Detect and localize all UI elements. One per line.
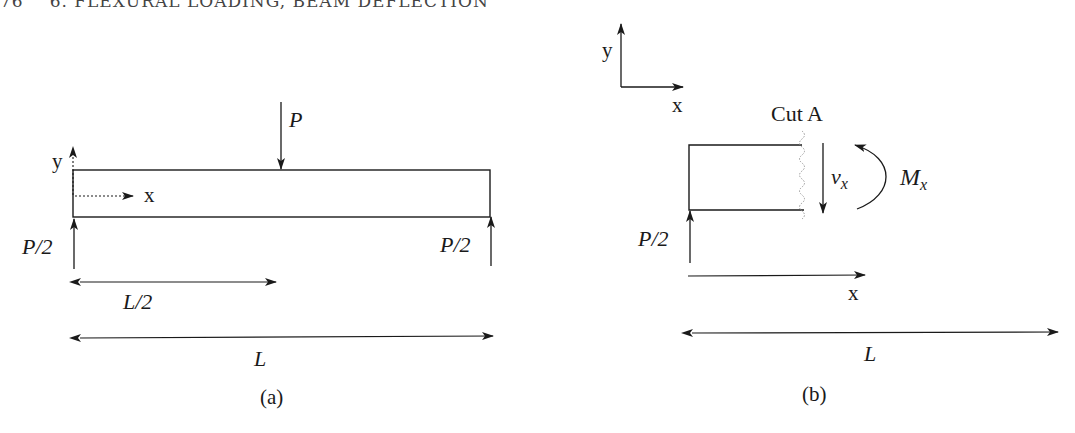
span-label: L (253, 346, 266, 371)
shear-label: vx (831, 164, 848, 192)
half-span-label: L/2 (122, 289, 152, 314)
load-label: P (288, 107, 302, 132)
moment-subscript: x (919, 176, 927, 193)
right-reaction-label: P/2 (439, 232, 471, 257)
cut-line-icon (800, 131, 805, 219)
figure-b: y x Cut A vx Mx P/2 x L (b) (602, 24, 1058, 406)
beam-segment (689, 145, 804, 210)
y-axis-label: y (52, 149, 63, 173)
shear-subscript: x (840, 175, 848, 192)
moment-label: Mx (899, 164, 927, 193)
global-x-label: x (672, 93, 683, 117)
moment-symbol: M (899, 164, 922, 190)
position-label: x (848, 281, 859, 305)
reaction-label: P/2 (637, 226, 669, 251)
left-reaction-label: P/2 (21, 234, 53, 259)
span-dimension-icon (692, 332, 1058, 333)
cut-label: Cut A (771, 101, 823, 126)
global-y-label: y (602, 38, 613, 62)
x-axis-label: x (144, 183, 155, 207)
beam-figure: P y x P/2 P/2 L/2 L (a) y x Cut A vx (0, 0, 1075, 433)
span-dimension-icon (80, 336, 493, 338)
shear-symbol: v (831, 164, 841, 189)
beam (73, 170, 490, 217)
caption-a: (a) (260, 385, 283, 409)
caption-b: (b) (802, 382, 827, 406)
span-label: L (863, 341, 876, 366)
moment-arrow-icon (855, 145, 886, 209)
position-arrow-icon (688, 275, 865, 276)
figure-a: P y x P/2 P/2 L/2 L (a) (21, 102, 493, 409)
